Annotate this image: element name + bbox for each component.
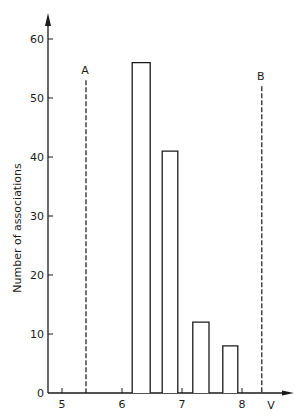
x-tick-label: 8 bbox=[239, 398, 246, 411]
y-tick-label: 50 bbox=[30, 92, 44, 105]
y-axis-title: Number of associations bbox=[11, 163, 24, 293]
x-tick-label: 6 bbox=[119, 398, 126, 411]
reference-label-a: A bbox=[81, 64, 89, 77]
histogram-chart: 0102030405060 5678 AB Number of associat… bbox=[0, 0, 303, 418]
y-tick-label: 10 bbox=[30, 328, 44, 341]
y-tick-label: 20 bbox=[30, 269, 44, 282]
x-axis-title: V bbox=[267, 399, 275, 412]
y-axis: 0102030405060 bbox=[30, 13, 53, 400]
y-tick-label: 0 bbox=[37, 387, 44, 400]
reference-label-b: B bbox=[257, 70, 265, 83]
y-axis-arrow-icon bbox=[45, 13, 51, 26]
y-tick-label: 40 bbox=[30, 151, 44, 164]
histogram-bar bbox=[193, 322, 209, 393]
x-axis-arrow-icon bbox=[282, 391, 294, 396]
histogram-bar bbox=[132, 63, 150, 393]
x-tick-label: 5 bbox=[59, 398, 66, 411]
x-tick-label: 7 bbox=[179, 398, 186, 411]
histogram-bar bbox=[223, 346, 238, 393]
y-tick-label: 30 bbox=[30, 210, 44, 223]
bars-group bbox=[132, 63, 238, 393]
y-tick-label: 60 bbox=[30, 33, 44, 46]
histogram-bar bbox=[162, 151, 178, 393]
